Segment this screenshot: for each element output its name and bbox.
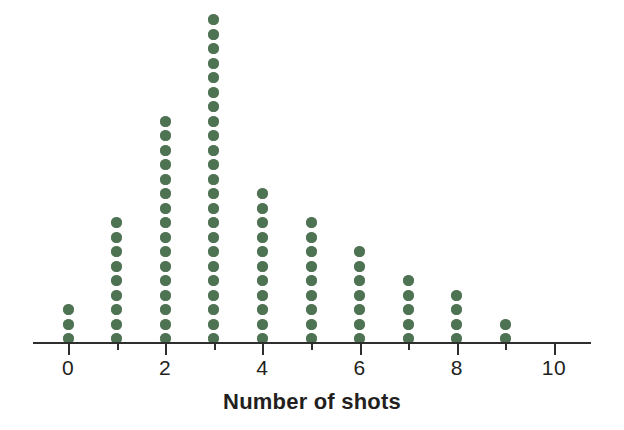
data-dot — [257, 232, 268, 243]
data-dot — [257, 261, 268, 272]
x-axis-tick-label-4: 4 — [232, 356, 292, 380]
data-dot — [306, 319, 317, 330]
data-dot — [160, 116, 171, 127]
data-dot — [208, 145, 219, 156]
data-dot — [111, 261, 122, 272]
data-dot — [257, 217, 268, 228]
x-axis-tick-6 — [360, 344, 362, 355]
data-dot — [451, 290, 462, 301]
data-dot — [160, 203, 171, 214]
data-dot — [208, 275, 219, 286]
data-dot — [257, 275, 268, 286]
data-dot — [160, 246, 171, 257]
data-dot — [208, 87, 219, 98]
x-axis-tick-label-2: 2 — [135, 356, 195, 380]
data-dot — [208, 101, 219, 112]
data-dot — [306, 275, 317, 286]
data-dot — [111, 290, 122, 301]
data-dot — [208, 116, 219, 127]
x-axis-tick-label-10: 10 — [524, 356, 584, 380]
dot-column-2 — [153, 112, 177, 345]
data-dot — [160, 275, 171, 286]
data-dot — [111, 246, 122, 257]
x-axis-tick-8 — [457, 344, 459, 355]
data-dot — [257, 319, 268, 330]
dot-column-8 — [445, 286, 469, 345]
x-axis-title: Number of shots — [0, 389, 624, 415]
data-dot — [257, 290, 268, 301]
dot-column-9 — [493, 315, 517, 345]
dot-column-0 — [56, 301, 80, 346]
data-dot — [354, 246, 365, 257]
x-axis-tick-9 — [505, 344, 507, 350]
plot-area — [0, 0, 624, 345]
dot-column-4 — [250, 185, 274, 346]
dot-column-5 — [299, 214, 323, 346]
data-dot — [63, 304, 74, 315]
data-dot — [354, 319, 365, 330]
data-dot — [306, 246, 317, 257]
data-dot — [208, 188, 219, 199]
data-dot — [354, 290, 365, 301]
data-dot — [208, 246, 219, 257]
data-dot — [111, 304, 122, 315]
data-dot — [160, 188, 171, 199]
x-axis-tick-5 — [311, 344, 313, 350]
x-axis-tick-label-8: 8 — [427, 356, 487, 380]
data-dot — [208, 203, 219, 214]
data-dot — [160, 159, 171, 170]
data-dot — [208, 261, 219, 272]
data-dot — [306, 232, 317, 243]
data-dot — [208, 217, 219, 228]
x-axis-tick-3 — [214, 344, 216, 350]
data-dot — [208, 232, 219, 243]
dot-column-7 — [396, 272, 420, 346]
dot-column-3 — [202, 11, 226, 346]
data-dot — [208, 14, 219, 25]
x-axis-tick-2 — [165, 344, 167, 355]
data-dot — [160, 174, 171, 185]
data-dot — [208, 159, 219, 170]
data-dot — [111, 232, 122, 243]
data-dot — [500, 319, 511, 330]
data-dot — [257, 304, 268, 315]
data-dot — [257, 188, 268, 199]
data-dot — [354, 275, 365, 286]
data-dot — [354, 261, 365, 272]
data-dot — [306, 217, 317, 228]
data-dot — [160, 232, 171, 243]
x-axis-tick-label-6: 6 — [330, 356, 390, 380]
x-axis-tick-10 — [554, 344, 556, 355]
data-dot — [403, 275, 414, 286]
data-dot — [208, 43, 219, 54]
data-dot — [160, 217, 171, 228]
data-dot — [111, 275, 122, 286]
data-dot — [160, 304, 171, 315]
data-dot — [208, 290, 219, 301]
data-dot — [208, 29, 219, 40]
data-dot — [208, 304, 219, 315]
data-dot — [403, 290, 414, 301]
data-dot — [354, 304, 365, 315]
data-dot — [306, 304, 317, 315]
data-dot — [306, 261, 317, 272]
dot-column-1 — [105, 214, 129, 346]
dot-column-6 — [348, 243, 372, 346]
data-dot — [208, 58, 219, 69]
data-dot — [111, 217, 122, 228]
data-dot — [160, 290, 171, 301]
dot-plot-chart: 0246810 Number of shots — [0, 0, 624, 430]
data-dot — [160, 261, 171, 272]
data-dot — [208, 174, 219, 185]
data-dot — [208, 130, 219, 141]
x-axis-tick-label-0: 0 — [38, 356, 98, 380]
data-dot — [306, 290, 317, 301]
data-dot — [63, 319, 74, 330]
data-dot — [160, 145, 171, 156]
data-dot — [403, 304, 414, 315]
x-axis-tick-7 — [408, 344, 410, 350]
data-dot — [208, 319, 219, 330]
x-axis-tick-1 — [117, 344, 119, 350]
x-axis-tick-4 — [262, 344, 264, 355]
data-dot — [208, 72, 219, 83]
